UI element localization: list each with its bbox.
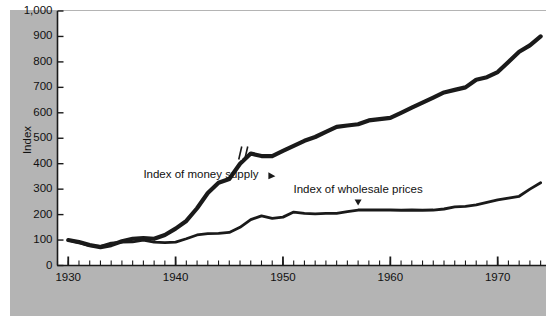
plot-area-background — [57, 11, 546, 265]
y-tick-label: 700 — [33, 80, 52, 92]
y-tick-label: 900 — [33, 29, 52, 41]
chart-figure: 01002003004005006007008009001,000 193019… — [0, 0, 559, 329]
money-supply-label: Index of money supply — [143, 168, 258, 180]
y-tick-label: 400 — [33, 157, 52, 169]
y-tick-label: 0 — [46, 259, 52, 271]
chart-canvas: 01002003004005006007008009001,000 193019… — [0, 0, 559, 329]
y-tick-label: 100 — [33, 233, 52, 245]
y-tick-label: 1,000 — [24, 4, 53, 16]
x-tick-label: 1970 — [485, 271, 511, 283]
y-tick-label: 800 — [33, 55, 52, 67]
y-axis-title: Index — [21, 126, 33, 154]
y-tick-label: 500 — [33, 131, 52, 143]
x-tick-label: 1950 — [270, 271, 296, 283]
y-tick-label: 600 — [33, 106, 52, 118]
y-tick-label: 300 — [33, 182, 52, 194]
x-tick-label: 1940 — [163, 271, 189, 283]
wholesale-prices-label: Index of wholesale prices — [294, 183, 423, 195]
y-tick-label: 200 — [33, 208, 52, 220]
x-tick-label: 1960 — [378, 271, 404, 283]
x-tick-label: 1930 — [55, 271, 81, 283]
